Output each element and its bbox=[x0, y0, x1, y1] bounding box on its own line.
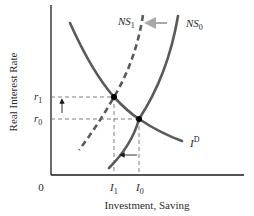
curve-label-ns1: NS1 bbox=[117, 15, 135, 30]
tick-label-r1: r1 bbox=[34, 90, 42, 105]
equilibrium-point-initial bbox=[136, 116, 142, 122]
tick-label-r0: r0 bbox=[34, 112, 42, 127]
tick-label-i0: I0 bbox=[135, 181, 144, 196]
saving-curve-ns1 bbox=[79, 15, 143, 150]
curve-label-investment-demand: ID bbox=[189, 135, 200, 149]
investment-demand-curve bbox=[70, 23, 182, 141]
equilibrium-point-new bbox=[111, 94, 117, 100]
curve-label-ns0: NS0 bbox=[185, 17, 203, 32]
x-axis-label: Investment, Saving bbox=[105, 199, 190, 211]
saving-curve-ns0 bbox=[109, 16, 178, 168]
y-axis-label: Real Interest Rate bbox=[7, 52, 19, 131]
tick-label-i1: I1 bbox=[109, 181, 118, 196]
origin-label: 0 bbox=[38, 181, 44, 193]
economics-diagram: Real Interest Rate Investment, Saving 0 … bbox=[0, 0, 254, 216]
